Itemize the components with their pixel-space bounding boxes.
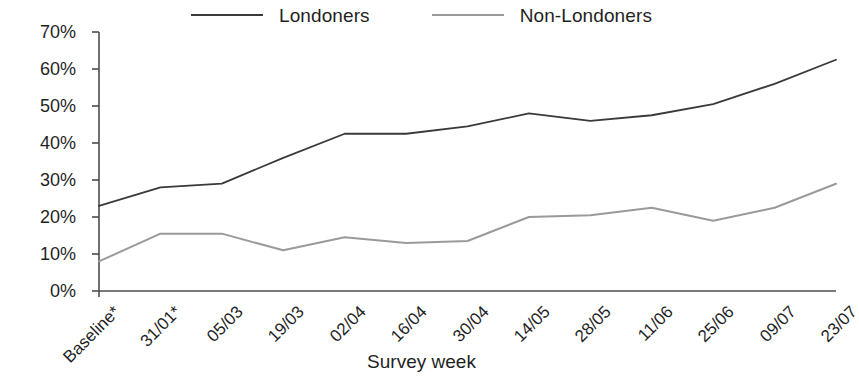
x-axis-tick-label: 23/07: [818, 303, 859, 345]
x-axis-tick-label: 28/05: [572, 303, 614, 345]
x-axis-tick-label: 16/04: [388, 303, 430, 345]
x-axis-tick-label: 02/04: [327, 303, 369, 345]
x-axis-tick-label: 14/05: [511, 303, 553, 345]
x-axis-tick-label: 09/07: [756, 303, 798, 345]
x-axis-tick-label: 05/03: [204, 303, 246, 345]
x-axis-title: Survey week: [0, 352, 843, 371]
x-axis-tick-label: 19/03: [265, 303, 307, 345]
x-axis-tick-label: 11/06: [635, 303, 676, 344]
x-axis-tick-label: 25/06: [695, 303, 737, 345]
x-axis-tick-label: 30/04: [449, 303, 491, 345]
x-axis-tick-label: 31/01*: [138, 303, 185, 350]
